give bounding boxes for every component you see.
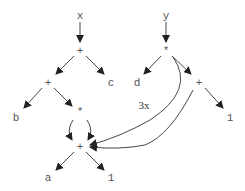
edge-plus-c [86, 56, 104, 74]
node-d: d [134, 77, 141, 89]
edge-label-3x: 3x [139, 99, 151, 111]
edge-plus-a [56, 152, 74, 170]
edge-mul-plus [172, 56, 191, 74]
node-a: a [45, 172, 52, 184]
node-one-bottom: 1 [108, 172, 115, 184]
edge-plus-1-right [205, 88, 223, 108]
node-one-right: 1 [227, 112, 234, 124]
node-plus-root: + [77, 45, 84, 57]
edge-plus-1 [86, 152, 104, 170]
edge-mul-plus-right [87, 120, 91, 140]
edge-plus-mul [54, 88, 72, 106]
node-plus-shared: + [77, 141, 84, 153]
edge-plus-b [24, 88, 42, 108]
node-plus-left: + [45, 77, 52, 89]
edge-mul-plus-left [69, 120, 73, 140]
node-b: b [13, 112, 20, 124]
edge-mul-d [144, 56, 161, 74]
node-c: c [108, 77, 115, 89]
node-mul-left: * [77, 106, 84, 118]
edge-plus-plus [56, 56, 74, 74]
node-plus-right: + [196, 77, 203, 89]
expression-dag-diagram: x + + c b * + a 1 y * d + 1 3x [0, 0, 245, 191]
diagram-svg: x + + c b * + a 1 y * d + 1 3x [0, 0, 245, 191]
edge-mul-shared-plus [90, 57, 181, 145]
node-x: x [77, 10, 84, 22]
node-y: y [163, 10, 170, 22]
node-mul-right: * [163, 45, 170, 57]
